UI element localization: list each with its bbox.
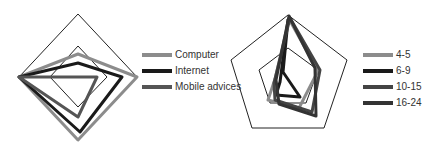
legend-swatch [142, 53, 172, 57]
legend-label: 4-5 [396, 50, 410, 60]
legend-swatch [363, 85, 393, 89]
legend-item-16-24: 16-24 [363, 98, 422, 108]
radar-chart-right [231, 15, 347, 128]
legend-item-computer: Computer [142, 50, 219, 60]
legend-label: 10-15 [396, 82, 422, 92]
legend-item-mobile-advices: Mobile advices [142, 82, 241, 92]
legend-label: Mobile advices [175, 82, 241, 92]
series-computer [19, 54, 137, 140]
legend-item-internet: Internet [142, 66, 209, 76]
legend-swatch [363, 69, 393, 73]
legend-label: 16-24 [396, 98, 422, 108]
legend-item-10-15: 10-15 [363, 82, 422, 92]
legend-label: Computer [175, 50, 219, 60]
legend-item-4-5: 4-5 [363, 50, 410, 60]
legend-item-6-9: 6-9 [363, 66, 410, 76]
legend-label: 6-9 [396, 66, 410, 76]
series-internet [19, 63, 122, 132]
legend-label: Internet [175, 66, 209, 76]
legend-swatch [142, 69, 172, 73]
legend-swatch [363, 101, 393, 105]
legend-swatch [363, 53, 393, 57]
grid-outer-pentagon [231, 15, 347, 128]
legend-swatch [142, 85, 172, 89]
radar-chart-left [19, 14, 137, 140]
